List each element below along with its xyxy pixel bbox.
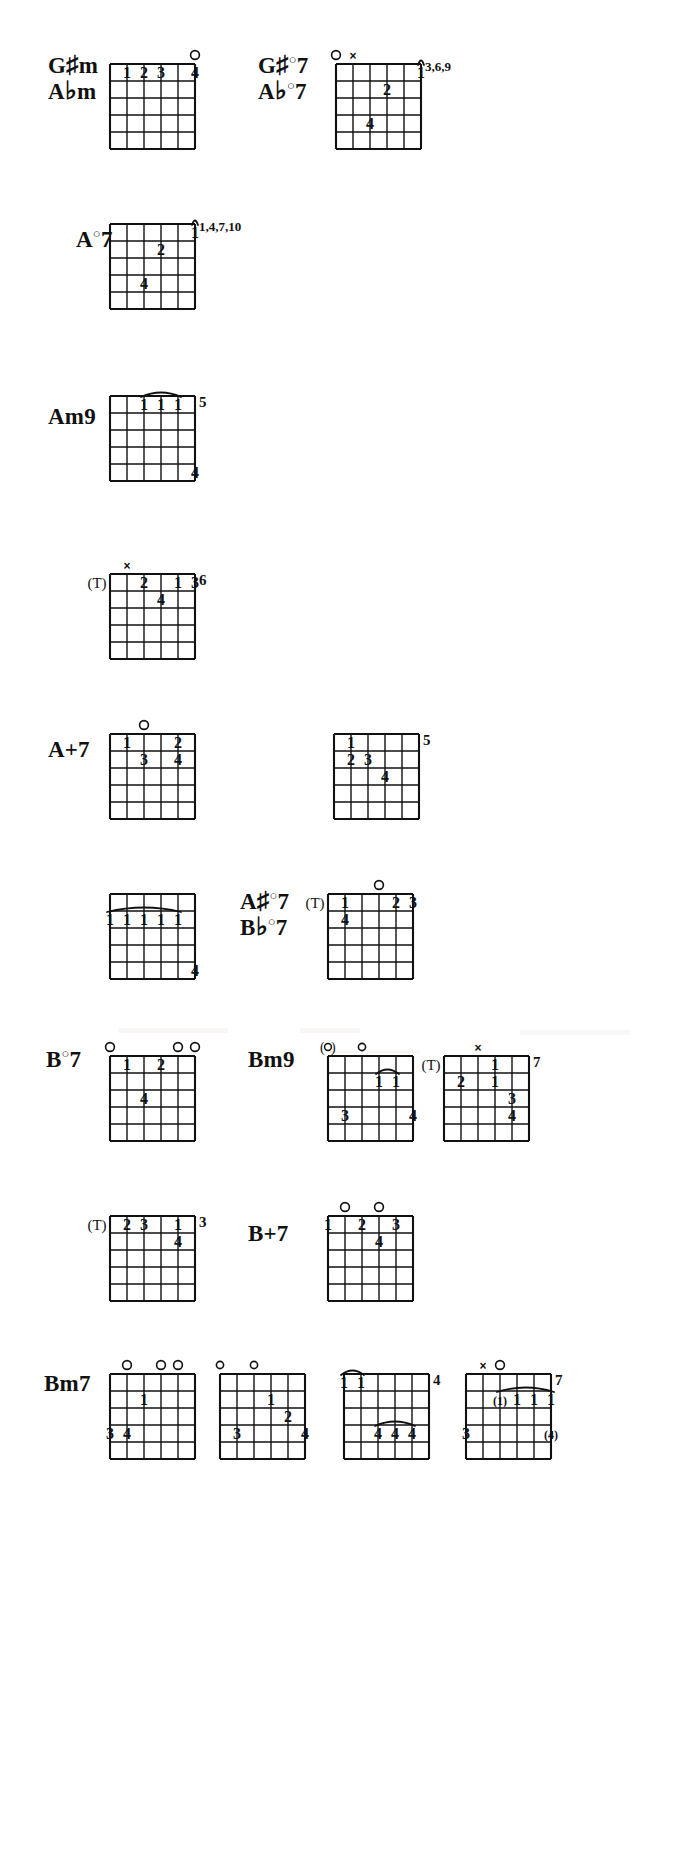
fret-position-line: 3 <box>199 1214 207 1230</box>
finger-number: 1 <box>267 1391 275 1408</box>
open-string-icon <box>191 51 200 60</box>
chord-diagram: 12345 <box>320 708 449 827</box>
fret-position-line: 5 <box>423 732 431 748</box>
fret-position-line: 7 <box>555 1372 563 1388</box>
finger-number: 1 <box>491 1073 499 1090</box>
finger-number: 1 <box>513 1391 521 1408</box>
finger-number: 2 <box>383 81 391 98</box>
diminished-sign: ○ <box>287 79 295 94</box>
chord-grid: 2314(T) <box>96 1190 225 1309</box>
flat-sign: ♭ <box>275 77 287 104</box>
finger-number: 1 <box>340 1374 348 1391</box>
fret-position-line: 1,4, <box>199 219 219 234</box>
finger-number: 1 <box>157 396 165 413</box>
finger-number: 3 <box>341 1107 349 1124</box>
chord-diagram: 1134() <box>314 1030 443 1149</box>
finger-number: 1 <box>375 1073 383 1090</box>
finger-number: 4 <box>508 1107 516 1124</box>
chord-name-label: G♯○7A♭○7 <box>258 52 309 105</box>
chord-name-label: A+7 <box>48 738 90 762</box>
chord-diagram: 1234 <box>96 708 225 827</box>
fret-position-line: 3,6, <box>425 59 445 74</box>
fret-position-number: 7 <box>555 1373 563 1388</box>
chord-name-line: Am9 <box>48 405 96 429</box>
finger-number: 3 <box>106 1425 114 1442</box>
chord-name-line: B♭○7 <box>240 914 289 940</box>
finger-number: 4 <box>374 1425 382 1442</box>
fret-position-number: 6 <box>199 573 207 588</box>
chord-grid: 1234(T) <box>314 868 443 987</box>
finger-number: 2 <box>392 894 400 911</box>
chord-name-line: A+7 <box>48 738 90 762</box>
muted-string-icon: × <box>479 1359 486 1373</box>
chord-name-line: B+7 <box>248 1222 289 1246</box>
diminished-sign: ○ <box>289 52 297 67</box>
thumb-icon: (T) <box>421 1057 440 1074</box>
finger-number: 1 <box>324 1216 332 1233</box>
finger-number: 4 <box>140 1090 148 1107</box>
flat-sign: ♭ <box>256 913 268 940</box>
finger-number: 2 <box>174 734 182 751</box>
open-string-icon <box>375 881 384 890</box>
chord-name-line: G♯m <box>48 52 98 78</box>
chord-name-line: B○7 <box>46 1048 81 1072</box>
finger-number: 3 <box>364 751 372 768</box>
finger-number: 2 <box>457 1073 465 1090</box>
fret-position-number: 7 <box>533 1055 541 1070</box>
chord-grid: 124× <box>322 38 451 157</box>
chord-name-line: A♭m <box>48 78 98 104</box>
chord-diagram: 12134×(T)7 <box>430 1030 559 1149</box>
fret-position-number: 3,6,9 <box>425 60 451 73</box>
fret-position-number: 5 <box>423 733 431 748</box>
chord-grid: 1114 <box>96 370 225 489</box>
open-string-icon <box>157 1361 166 1370</box>
sharp-sign: ♯ <box>276 51 289 78</box>
open-string-icon <box>106 1043 115 1052</box>
open-string-icon <box>174 1361 183 1370</box>
open-string-icon <box>191 1043 200 1052</box>
finger-number: 4 <box>366 115 374 132</box>
finger-number: 1 <box>530 1391 538 1408</box>
finger-number: 2 <box>347 751 355 768</box>
flat-sign: ♭ <box>65 77 77 104</box>
finger-number: 3 <box>140 1216 148 1233</box>
fret-position-number: 5 <box>199 395 207 410</box>
finger-number: 4 <box>409 1107 417 1124</box>
chord-grid: 124 <box>96 1030 225 1149</box>
open-string-icon <box>216 1361 223 1368</box>
finger-number: 4 <box>301 1425 309 1442</box>
finger-number: 1 <box>123 734 131 751</box>
chord-grid: 1234 <box>96 38 225 157</box>
finger-number: 1 <box>341 894 349 911</box>
chord-name-label: Bm9 <box>248 1048 295 1072</box>
finger-number: 1 <box>174 396 182 413</box>
chord-name-line: A♯○7 <box>240 888 289 914</box>
finger-number: 1 <box>123 64 131 81</box>
finger-number: 1 <box>140 396 148 413</box>
thumb-icon: (T) <box>87 1217 106 1234</box>
chord-name-label: B○7 <box>46 1048 81 1072</box>
chord-diagram: 114444 <box>330 1348 459 1467</box>
open-string-icon <box>496 1361 505 1370</box>
chord-name-label: A♯○7B♭○7 <box>240 888 289 941</box>
fret-position-line: 9 <box>445 59 452 74</box>
chord-grid: 12134×(T) <box>430 1030 559 1149</box>
chord-grid: 1234 <box>206 1348 335 1467</box>
chord-grid: 1134() <box>314 1030 443 1149</box>
chord-grid: 3(1)111(4)× <box>452 1348 581 1467</box>
finger-number: 3 <box>409 894 417 911</box>
chord-grid: 111114 <box>96 868 225 987</box>
muted-string-icon: × <box>123 559 130 573</box>
finger-number: 4 <box>191 464 199 481</box>
sharp-sign: ♯ <box>66 51 79 78</box>
finger-number: 1 <box>392 1073 400 1090</box>
open-string-icon <box>123 1361 132 1370</box>
finger-number: 1 <box>106 911 114 928</box>
chord-grid: 11444 <box>330 1348 459 1467</box>
finger-number: 2 <box>157 241 165 258</box>
finger-number: 1 <box>347 734 355 751</box>
chord-diagram: 1234 <box>314 1190 443 1309</box>
chord-name-label: B+7 <box>248 1222 289 1246</box>
finger-number: 4 <box>391 1425 399 1442</box>
finger-number: 1 <box>140 1391 148 1408</box>
